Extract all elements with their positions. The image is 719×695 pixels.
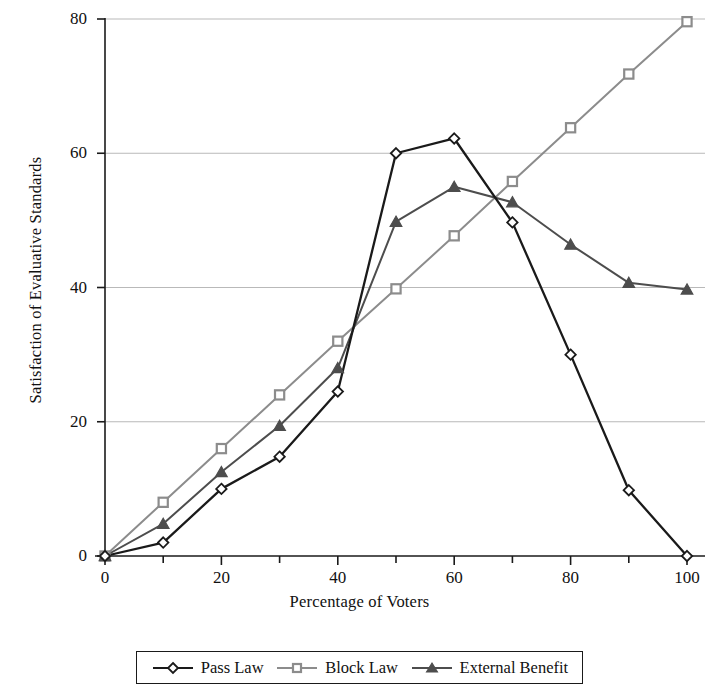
legend-label: External Benefit: [460, 658, 569, 678]
square-marker-icon: [566, 123, 575, 132]
triangle-marker-icon: [332, 362, 344, 372]
triangle-marker-icon: [448, 181, 460, 191]
square-marker-icon: [333, 337, 342, 346]
square-marker-icon: [275, 659, 319, 677]
y-tick-label-0: 0: [47, 546, 87, 566]
square-marker-icon: [682, 17, 691, 26]
series-line-external-benefit: [105, 187, 687, 556]
square-marker-icon: [508, 177, 517, 186]
legend-label: Block Law: [325, 658, 398, 678]
y-tick-label-20: 20: [47, 412, 87, 432]
plot-area: [0, 0, 719, 695]
x-axis-title: Percentage of Voters: [0, 592, 719, 612]
square-marker-icon: [624, 69, 633, 78]
square-marker-icon: [391, 284, 400, 293]
square-marker-icon: [159, 498, 168, 507]
y-tick-label-60: 60: [47, 143, 87, 163]
x-tick-label-40: 40: [308, 568, 368, 588]
x-tick-label-100: 100: [657, 568, 717, 588]
square-marker-icon: [217, 444, 226, 453]
y-tick-label-80: 80: [47, 9, 87, 29]
y-tick-label-40: 40: [47, 278, 87, 298]
legend-item-block-law[interactable]: Block Law: [275, 658, 398, 678]
square-marker-icon: [275, 390, 284, 399]
triangle-marker-icon: [410, 659, 454, 677]
diamond-marker-icon: [565, 349, 575, 359]
square-marker-icon: [450, 231, 459, 240]
legend-item-external-benefit[interactable]: External Benefit: [410, 658, 569, 678]
x-tick-label-20: 20: [191, 568, 251, 588]
triangle-marker-icon: [390, 216, 402, 226]
line-chart: Satisfaction of Evaluative Standards Per…: [0, 0, 719, 695]
diamond-marker-icon: [391, 148, 401, 158]
series-line-pass-law: [105, 138, 687, 556]
x-tick-label-0: 0: [75, 568, 135, 588]
diamond-marker-icon: [151, 659, 195, 677]
x-tick-label-80: 80: [541, 568, 601, 588]
chart-legend: Pass LawBlock LawExternal Benefit: [136, 651, 583, 684]
y-axis-title: Satisfaction of Evaluative Standards: [26, 0, 46, 560]
x-tick-label-60: 60: [424, 568, 484, 588]
legend-item-pass-law[interactable]: Pass Law: [151, 658, 264, 678]
legend-label: Pass Law: [201, 658, 264, 678]
